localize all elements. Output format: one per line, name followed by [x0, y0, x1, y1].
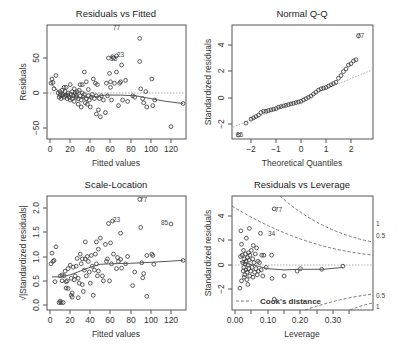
data-point [141, 276, 145, 280]
data-point [142, 272, 146, 276]
x-tick-label: 80 [126, 144, 136, 154]
data-point [88, 281, 92, 285]
data-points [49, 197, 185, 304]
data-point [79, 105, 83, 109]
data-point [120, 63, 124, 67]
y-tick-label: 0.5 [31, 275, 41, 287]
data-point [76, 296, 80, 300]
x-axis: −2 −1 0 1 2 [246, 139, 353, 154]
data-point [150, 77, 154, 81]
data-point [251, 275, 255, 279]
data-point [138, 60, 142, 64]
data-point [91, 77, 95, 81]
y-tick-label: 2.0 [31, 202, 41, 214]
data-point [126, 255, 130, 259]
data-point [81, 290, 85, 294]
data-point [108, 279, 112, 283]
data-point [138, 37, 142, 41]
data-point [95, 240, 99, 244]
data-point [252, 261, 256, 265]
y-tick-label: 2 [216, 68, 226, 73]
data-point [251, 257, 255, 261]
point-label: 85 [236, 131, 244, 138]
data-point [110, 98, 114, 102]
data-point [249, 249, 253, 253]
y-axis-label: Standardized residuals [203, 39, 213, 125]
data-point [99, 236, 103, 240]
panel-normal-qq: Normal Q-Q 77 85 −2 −1 0 1 2 4 2 0 −2 Th… [203, 8, 373, 168]
y-axis: 2.0 1.5 1.0 0.5 0.0 [31, 202, 47, 311]
x-tick-label: 40 [85, 144, 95, 154]
data-point [97, 269, 101, 273]
y-tick-label: 50 [31, 53, 41, 63]
y-axis-label: √|Standardized residuals| [18, 205, 28, 301]
y-tick-label: 0.0 [31, 299, 41, 311]
data-point [245, 278, 249, 282]
data-point [106, 94, 110, 98]
legend-label: Cook's distance [260, 297, 322, 306]
data-point [120, 266, 124, 270]
point-label: 77 [357, 32, 365, 39]
point-label: 77 [275, 206, 283, 213]
data-point [248, 227, 252, 231]
point-label: 23 [117, 51, 125, 58]
data-point [82, 70, 86, 74]
y-axis: 4 2 0 −2 [216, 42, 232, 128]
point-label: 23 [113, 216, 121, 223]
data-point [253, 252, 257, 256]
data-point [261, 274, 265, 278]
x-tick-label: 100 [144, 144, 158, 154]
data-point [94, 252, 98, 256]
data-point [279, 105, 283, 109]
data-point [115, 70, 119, 74]
y-axis-label: Standardized residuals [203, 210, 213, 296]
data-point [84, 80, 88, 84]
data-point [108, 72, 112, 76]
y-tick-label: 4 [216, 42, 226, 47]
point-label: 77 [140, 196, 148, 203]
x-axis: 0.00 0.10 0.20 0.30 [227, 310, 349, 325]
data-point [104, 111, 108, 115]
data-point [240, 279, 244, 283]
data-point [109, 241, 113, 245]
data-points [238, 207, 345, 301]
data-point [53, 280, 57, 284]
data-point [105, 81, 109, 85]
data-point [238, 286, 242, 290]
data-point [83, 240, 87, 244]
data-point [322, 86, 326, 90]
data-point [95, 112, 99, 116]
plot-frame [232, 196, 373, 310]
data-point [96, 274, 100, 278]
plot-frame [47, 196, 186, 310]
x-tick-label: 0 [48, 144, 53, 154]
x-tick-label: 0.10 [260, 315, 277, 325]
data-point [131, 284, 135, 288]
data-point [65, 279, 69, 283]
data-point [270, 277, 274, 281]
x-tick-label: 0.20 [292, 315, 309, 325]
contour-label: 1 [376, 220, 380, 227]
y-axis-label: Residuals [18, 63, 28, 100]
data-point [242, 249, 246, 253]
data-point [244, 121, 248, 125]
data-point [50, 251, 54, 255]
cooks-distance-contour-1-lower [350, 303, 373, 310]
x-tick-label: 0 [48, 315, 53, 325]
y-tick-label: 0 [31, 90, 41, 95]
y-tick-label: −2 [216, 119, 226, 129]
data-point [299, 267, 303, 271]
data-point [54, 245, 58, 249]
data-point [144, 90, 148, 94]
x-axis: 0 20 40 60 80 100 120 [48, 139, 179, 154]
plot-frame [232, 25, 373, 139]
point-label: 85 [161, 219, 169, 226]
data-point [145, 105, 149, 109]
data-point [88, 105, 92, 109]
y-tick-label: −2 [216, 284, 226, 294]
data-point [297, 100, 301, 104]
data-point [109, 86, 113, 90]
point-label: 53 [110, 55, 118, 62]
data-point [121, 98, 125, 102]
data-point [339, 74, 343, 78]
